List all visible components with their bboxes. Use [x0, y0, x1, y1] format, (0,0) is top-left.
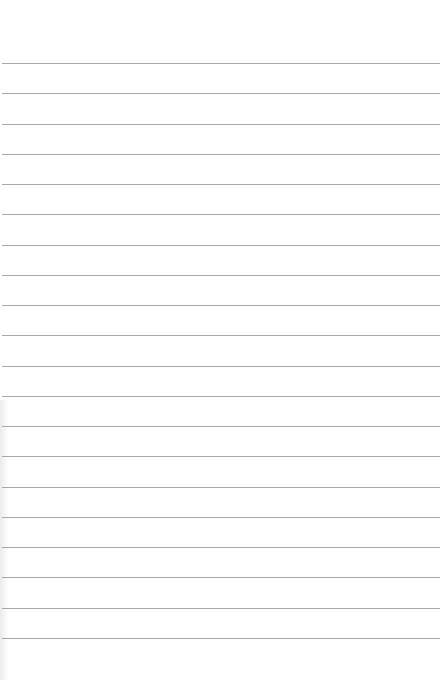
ruled-line — [2, 305, 440, 306]
ruled-line — [2, 63, 440, 64]
ruled-line — [2, 547, 440, 548]
ruled-line — [2, 184, 440, 185]
ruled-line — [2, 245, 440, 246]
ruled-line — [2, 154, 440, 155]
ruled-line — [2, 638, 440, 639]
ruled-line — [2, 124, 440, 125]
lined-paper-sheet — [0, 0, 442, 680]
ruled-line — [2, 577, 440, 578]
ruled-line — [2, 214, 440, 215]
ruled-line — [2, 426, 440, 427]
ruled-line — [2, 366, 440, 367]
ruled-line — [2, 275, 440, 276]
ruled-line — [2, 608, 440, 609]
ruled-line — [2, 517, 440, 518]
ruled-line — [2, 396, 440, 397]
ruled-line — [2, 487, 440, 488]
ruled-line — [2, 335, 440, 336]
ruled-line — [2, 456, 440, 457]
ruled-line — [2, 93, 440, 94]
